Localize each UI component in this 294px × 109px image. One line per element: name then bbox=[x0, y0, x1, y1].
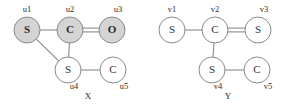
vertex-label-v3: v3 bbox=[260, 4, 269, 14]
vertex-label-v2: v2 bbox=[211, 4, 220, 14]
node-u5[interactable]: Cu5 bbox=[100, 57, 128, 91]
graph-caption-y: Y bbox=[225, 91, 232, 101]
vertex-label-u4: u4 bbox=[70, 81, 79, 91]
graph-caption-x: X bbox=[85, 91, 92, 101]
figure-canvas: Su1Cu2Ou3Su4Cu5XSv1Cv2Sv3Sv4Cv5Y bbox=[0, 0, 294, 109]
node-u3[interactable]: Ou3 bbox=[99, 4, 125, 43]
vertex-label-v1: v1 bbox=[168, 4, 177, 14]
node-symbol-u1: S bbox=[24, 23, 30, 35]
molecular-graph-figure: Su1Cu2Ou3Su4Cu5XSv1Cv2Sv3Sv4Cv5Y bbox=[0, 0, 294, 109]
node-symbol-u4: S bbox=[65, 63, 71, 75]
node-v4[interactable]: Sv4 bbox=[199, 57, 225, 91]
edge-v2-v3-double bbox=[228, 28, 245, 32]
vertex-label-v5: v5 bbox=[264, 81, 273, 91]
graph-y: Sv1Cv2Sv3Sv4Cv5Y bbox=[159, 4, 272, 101]
node-v5[interactable]: Cv5 bbox=[244, 57, 272, 91]
vertex-label-u3: u3 bbox=[114, 4, 123, 14]
node-symbol-v4: S bbox=[209, 63, 215, 75]
node-symbol-u3: O bbox=[108, 23, 117, 35]
node-v3[interactable]: Sv3 bbox=[245, 4, 271, 43]
edge-u1-u4 bbox=[36, 39, 58, 61]
vertex-label-v4: v4 bbox=[214, 81, 223, 91]
node-symbol-u2: C bbox=[66, 23, 74, 35]
node-symbol-v3: S bbox=[255, 23, 261, 35]
node-symbol-v1: S bbox=[169, 23, 175, 35]
node-u4[interactable]: Su4 bbox=[55, 57, 81, 91]
node-symbol-u5: C bbox=[109, 63, 116, 75]
node-symbol-v5: C bbox=[253, 63, 260, 75]
vertex-label-u1: u1 bbox=[23, 4, 32, 14]
vertex-label-u5: u5 bbox=[120, 81, 129, 91]
edge-u2-u3-double bbox=[83, 28, 99, 32]
vertex-label-u2: u2 bbox=[66, 4, 75, 14]
node-v2[interactable]: Cv2 bbox=[202, 4, 228, 43]
node-symbol-v2: C bbox=[211, 23, 218, 35]
node-u2[interactable]: Cu2 bbox=[57, 4, 83, 43]
node-v1[interactable]: Sv1 bbox=[159, 4, 185, 43]
edge-u2-u4 bbox=[69, 43, 70, 57]
node-u1[interactable]: Su1 bbox=[14, 4, 40, 43]
graph-x: Su1Cu2Ou3Su4Cu5X bbox=[14, 4, 128, 101]
edge-v2-v4 bbox=[213, 43, 214, 57]
